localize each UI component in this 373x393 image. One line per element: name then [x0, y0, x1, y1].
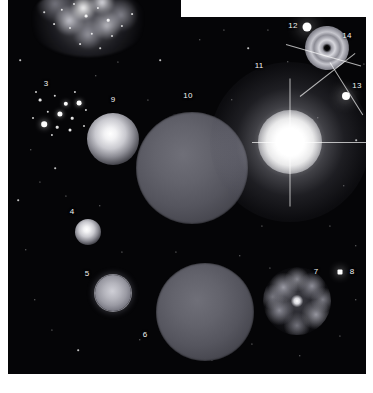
- field-star: [54, 167, 56, 169]
- large-dim-sphere-lower: [156, 263, 181, 361]
- nebula-star: [73, 3, 75, 5]
- clumpy-irregular-galaxy: [263, 267, 331, 335]
- object-label-3: 3: [44, 80, 49, 88]
- field-star: [30, 149, 31, 150]
- cluster-star: [57, 111, 62, 116]
- field-star: [269, 267, 270, 268]
- field-star: [25, 249, 26, 250]
- sky-plate-right: 34567891011121314: [180, 17, 366, 374]
- nebula-star: [69, 27, 71, 29]
- field-star: [139, 339, 140, 340]
- field-star: [195, 299, 196, 300]
- object-label-12: 12: [288, 22, 297, 30]
- object-label-4: 4: [70, 208, 75, 216]
- field-star: [261, 225, 262, 226]
- nebula-star: [121, 25, 123, 27]
- field-star: [39, 181, 40, 182]
- field-star: [339, 335, 340, 336]
- field-star: [17, 199, 19, 201]
- field-star: [199, 39, 200, 40]
- cluster-star: [85, 109, 87, 111]
- field-star: [175, 251, 176, 252]
- large-dim-sphere-upper: [136, 112, 181, 224]
- cluster-star: [35, 91, 37, 93]
- ringed-sphere: [95, 275, 131, 311]
- nebula-star: [107, 19, 110, 22]
- field-star: [121, 251, 122, 252]
- starburst-halo: [210, 62, 366, 222]
- ring-galaxy: [299, 20, 354, 75]
- field-star: [65, 195, 66, 196]
- field-star: [247, 47, 249, 49]
- field-star: [159, 59, 161, 61]
- sky-plate-left: 34567891011121314: [8, 0, 181, 374]
- field-star: [51, 329, 52, 330]
- nebula-star: [79, 43, 81, 45]
- field-star: [34, 299, 35, 300]
- field-star: [343, 185, 344, 186]
- astronomy-scale-figure: 34567891011121314 34567891011121314: [0, 0, 373, 393]
- compact-star-point: [338, 270, 343, 275]
- nebula-star: [111, 35, 113, 37]
- cluster-star: [41, 121, 47, 127]
- bright-compact-star: [303, 23, 312, 32]
- field-star: [77, 349, 79, 351]
- field-star: [363, 63, 364, 64]
- cluster-star: [54, 95, 56, 97]
- sky-canvas-right: 34567891011121314: [180, 17, 366, 374]
- cluster-star: [69, 129, 72, 132]
- cluster-star: [71, 117, 74, 120]
- object-label-10: 10: [183, 92, 192, 100]
- nebula-star: [53, 23, 55, 25]
- field-star: [355, 299, 356, 300]
- field-star: [117, 61, 118, 62]
- object-label-8: 8: [350, 268, 355, 276]
- object-label-11: 11: [255, 62, 264, 70]
- cluster-star: [83, 125, 85, 127]
- field-star: [147, 99, 148, 100]
- nebula-star: [97, 7, 99, 9]
- field-star: [99, 205, 100, 206]
- field-star: [211, 359, 212, 360]
- field-star: [299, 355, 300, 356]
- cluster-star: [77, 101, 82, 106]
- cluster-star: [51, 134, 53, 136]
- spiked-bright-star: [342, 92, 350, 100]
- bright-glowing-sphere: [87, 113, 139, 165]
- cluster-star: [64, 102, 68, 106]
- object-label-7: 7: [314, 268, 319, 276]
- cluster-star: [74, 91, 76, 93]
- starburst-core: [258, 110, 322, 174]
- nebula-star: [43, 11, 45, 13]
- nebula-star: [131, 13, 133, 15]
- field-star: [215, 205, 216, 206]
- nebula-star: [61, 9, 63, 11]
- field-star: [231, 99, 232, 100]
- field-star: [355, 245, 356, 246]
- spike-e: [290, 79, 291, 207]
- cluster-star: [47, 111, 49, 113]
- field-star: [223, 29, 224, 30]
- field-star: [239, 255, 240, 256]
- nebula-star: [99, 47, 101, 49]
- nebula-star: [85, 15, 88, 18]
- field-star: [251, 343, 252, 344]
- field-star: [287, 61, 288, 62]
- field-star: [317, 117, 318, 118]
- object-label-9: 9: [111, 96, 116, 104]
- large-dim-sphere-lower: [180, 263, 254, 361]
- object-label-6: 6: [143, 331, 148, 339]
- field-star: [329, 225, 330, 226]
- field-star: [95, 75, 96, 76]
- object-label-14: 14: [342, 32, 351, 40]
- field-star: [355, 139, 357, 141]
- spike-a: [286, 44, 361, 66]
- spike-b: [300, 53, 356, 97]
- cluster-star: [56, 126, 59, 129]
- nebula-star: [91, 33, 93, 35]
- field-star: [19, 59, 21, 61]
- object-label-5: 5: [85, 270, 90, 278]
- small-glowing-sphere: [75, 219, 101, 245]
- spike-d: [252, 142, 366, 143]
- cluster-star: [39, 99, 42, 102]
